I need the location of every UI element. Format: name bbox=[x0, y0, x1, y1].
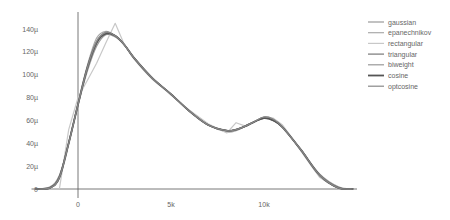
legend-label-epanechnikov: epanechnikov bbox=[388, 29, 432, 37]
y-tick-label: 120µ bbox=[22, 48, 38, 56]
series-rectangular bbox=[35, 23, 353, 189]
y-tick-label: 100µ bbox=[22, 71, 38, 79]
y-tick-label: 40µ bbox=[26, 140, 38, 148]
legend-label-optcosine: optcosine bbox=[388, 83, 418, 91]
x-tick-label: 0 bbox=[76, 201, 80, 208]
series-optcosine bbox=[35, 32, 353, 189]
legend-label-cosine: cosine bbox=[388, 72, 408, 79]
y-tick-label: 60µ bbox=[26, 117, 38, 125]
x-tick-label: 5k bbox=[167, 201, 175, 208]
series-biweight bbox=[35, 32, 353, 189]
series-triangular bbox=[35, 32, 353, 189]
legend: gaussianepanechnikovrectangulartriangula… bbox=[368, 19, 432, 91]
legend-label-triangular: triangular bbox=[388, 51, 418, 59]
y-tick-label: 140µ bbox=[22, 26, 38, 34]
series-cosine bbox=[35, 33, 353, 189]
series-lines bbox=[35, 23, 353, 189]
y-tick-label: 80µ bbox=[26, 94, 38, 102]
series-epanechnikov bbox=[35, 31, 353, 189]
legend-label-gaussian: gaussian bbox=[388, 19, 416, 27]
legend-label-biweight: biweight bbox=[388, 61, 414, 69]
series-gaussian bbox=[35, 34, 353, 189]
legend-label-rectangular: rectangular bbox=[388, 40, 424, 48]
y-tick-label: 20µ bbox=[26, 163, 38, 171]
density-chart: 05k10k020µ40µ60µ80µ100µ120µ140µ gaussian… bbox=[0, 0, 450, 220]
x-tick-label: 10k bbox=[258, 201, 270, 208]
